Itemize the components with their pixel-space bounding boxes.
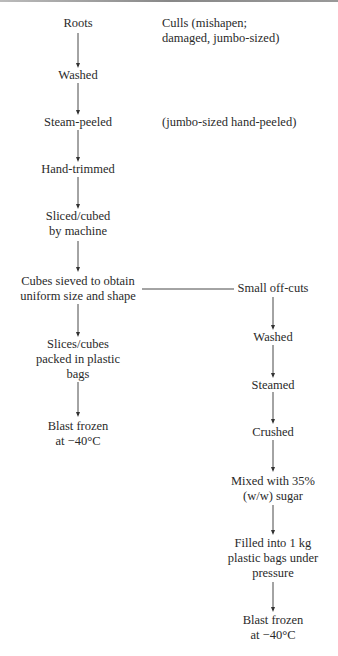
step-label: Mixed with 35%: [231, 474, 315, 489]
step-label: Steam-peeled: [44, 115, 112, 130]
step-washed-2: Washed: [253, 330, 292, 345]
arrowhead: [76, 412, 80, 417]
arrowhead: [271, 419, 275, 424]
note-label: (jumbo-sized hand-peeled): [162, 115, 296, 130]
step-label: (w/w) sugar: [231, 489, 315, 504]
step-label: Washed: [58, 68, 97, 83]
step-blast-frozen: Blast frozen at −40°C: [48, 419, 109, 449]
step-label: Steamed: [251, 378, 294, 393]
step-label: at −40°C: [243, 628, 304, 643]
step-label: Washed: [253, 330, 292, 345]
step-label: Slices/cubes: [36, 337, 120, 352]
step-label: Blast frozen: [243, 613, 304, 628]
step-slices-packed: Slices/cubes packed in plastic bags: [36, 337, 120, 382]
step-hand-trimmed: Hand-trimmed: [41, 162, 115, 177]
step-small-off-cuts: Small off-cuts: [238, 281, 309, 296]
step-label: Cubes sieved to obtain: [20, 274, 136, 289]
step-washed: Washed: [58, 68, 97, 83]
step-label: at −40°C: [48, 434, 109, 449]
note-jumbo: (jumbo-sized hand-peeled): [162, 115, 296, 130]
step-label: bags: [36, 367, 120, 382]
step-cubes-sieved: Cubes sieved to obtain uniform size and …: [20, 274, 136, 304]
step-label: pressure: [228, 566, 318, 581]
step-label: plastic bags under: [228, 551, 318, 566]
step-label: Roots: [63, 16, 92, 31]
step-label: packed in plastic: [36, 352, 120, 367]
step-label: uniform size and shape: [20, 289, 136, 304]
step-label: Crushed: [252, 425, 294, 440]
step-label: Blast frozen: [48, 419, 109, 434]
note-culls: Culls (mishapen; damaged, jumbo-sized): [162, 16, 279, 46]
note-label: damaged, jumbo-sized): [162, 31, 279, 46]
step-filled-bags: Filled into 1 kg plastic bags under pres…: [228, 536, 318, 581]
step-crushed: Crushed: [252, 425, 294, 440]
arrowhead: [271, 467, 275, 472]
step-label: Sliced/cubed: [46, 209, 111, 224]
arrowhead: [271, 607, 275, 612]
step-blast-frozen-2: Blast frozen at −40°C: [243, 613, 304, 643]
step-steam-peeled: Steam-peeled: [44, 115, 112, 130]
step-steamed: Steamed: [251, 378, 294, 393]
step-label: Hand-trimmed: [41, 162, 115, 177]
step-label: by machine: [46, 224, 111, 239]
arrowhead: [271, 530, 275, 535]
step-mixed-sugar: Mixed with 35% (w/w) sugar: [231, 474, 315, 504]
arrowhead: [76, 267, 80, 272]
step-label: Small off-cuts: [238, 281, 309, 296]
step-sliced-cubed: Sliced/cubed by machine: [46, 209, 111, 239]
step-roots: Roots: [63, 16, 92, 31]
note-label: Culls (mishapen;: [162, 16, 279, 31]
step-label: Filled into 1 kg: [228, 536, 318, 551]
